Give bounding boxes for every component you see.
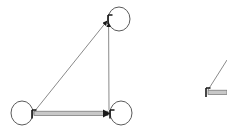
self-loop-bottom-left-node bbox=[11, 101, 33, 125]
diagram-canvas bbox=[0, 0, 227, 136]
graph-main bbox=[11, 7, 132, 125]
directed-graph-figure bbox=[0, 0, 227, 136]
edge-bottom-left-to-top bbox=[34, 21, 107, 112]
self-loop-bottom-right-node bbox=[110, 101, 132, 125]
partial-edge-diagonal bbox=[208, 60, 227, 90]
graph-partial-right bbox=[206, 60, 227, 97]
edge-thick-band bbox=[34, 111, 108, 115]
self-loop-top-node bbox=[108, 7, 130, 31]
node-marker-bottom-right bbox=[110, 110, 115, 119]
partial-edge-horizontal bbox=[208, 90, 227, 94]
node-marker-top bbox=[108, 15, 113, 24]
edge-bottom-left-to-bottom-right bbox=[34, 109, 111, 117]
